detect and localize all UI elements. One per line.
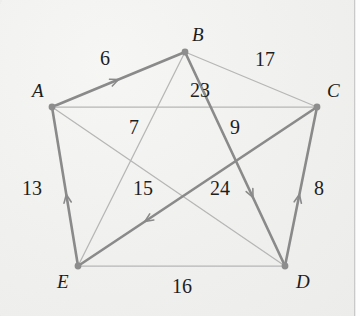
vertex-label-b: B xyxy=(192,25,204,44)
vertex-label-e: E xyxy=(57,272,69,291)
graph-node-b[interactable] xyxy=(182,49,189,56)
graph-edge-ad xyxy=(52,107,285,266)
graph-edge-be xyxy=(78,52,185,266)
graph-svg xyxy=(0,0,360,316)
vertex-label-d: D xyxy=(296,272,310,291)
graph-edge-ce xyxy=(78,107,317,266)
edges-layer xyxy=(52,52,317,266)
graph-edge-ea xyxy=(52,107,78,266)
graph-node-a[interactable] xyxy=(49,104,56,111)
graph-node-c[interactable] xyxy=(314,104,321,111)
edge-weight-ed: 16 xyxy=(172,276,192,296)
graph-node-d[interactable] xyxy=(282,263,289,270)
graph-edge-dc xyxy=(285,107,317,266)
edge-weight-ad: 15 xyxy=(133,178,153,198)
nodes-layer xyxy=(49,49,321,270)
graph-node-e[interactable] xyxy=(75,263,82,270)
diagram-canvas: ABCDE 6172379131524816 xyxy=(0,0,360,316)
edge-weight-dc: 8 xyxy=(314,178,324,198)
vertex-label-c: C xyxy=(327,81,340,100)
edge-weight-ab: 6 xyxy=(100,48,110,68)
edge-weight-be: 23 xyxy=(190,80,210,100)
arrowheads-layer xyxy=(64,79,301,221)
edge-weight-ea: 13 xyxy=(22,178,42,198)
vertex-label-a: A xyxy=(32,81,44,100)
edge-weight-bc: 17 xyxy=(255,49,275,69)
edge-weight-ce: 24 xyxy=(210,178,230,198)
edge-weight-ac: 7 xyxy=(129,117,139,137)
edge-weight-bd: 9 xyxy=(230,117,240,137)
